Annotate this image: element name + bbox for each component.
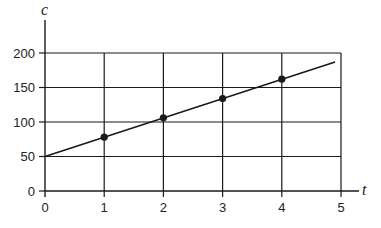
line-chart: 050100150200012345 c t [0, 0, 381, 228]
y-axis-label: c [41, 1, 48, 18]
axes [39, 20, 359, 197]
data-point-marker [101, 134, 108, 141]
data-point-marker [219, 95, 226, 102]
x-tick-label: 5 [337, 200, 344, 215]
data-point-marker [278, 76, 285, 83]
x-tick-label: 4 [278, 200, 285, 215]
x-tick-label: 3 [219, 200, 226, 215]
x-tick-label: 1 [101, 200, 108, 215]
y-tick-label: 0 [28, 184, 35, 199]
series-line [45, 62, 335, 157]
x-tick-label: 2 [160, 200, 167, 215]
tick-labels: 050100150200012345 [13, 46, 344, 216]
y-tick-label: 100 [13, 115, 35, 130]
y-tick-label: 50 [21, 149, 35, 164]
x-tick-label: 0 [41, 200, 48, 215]
x-axis-label: t [362, 181, 367, 198]
y-tick-label: 150 [13, 80, 35, 95]
data-series [45, 62, 335, 157]
data-point-marker [160, 114, 167, 121]
y-tick-label: 200 [13, 46, 35, 61]
